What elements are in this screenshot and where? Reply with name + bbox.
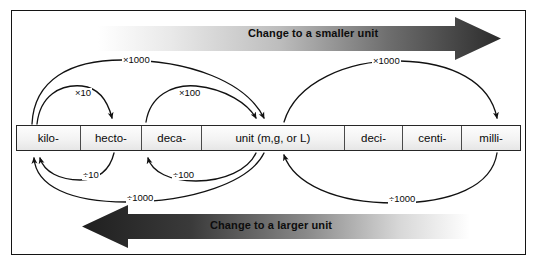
scale-cell-label: hecto- bbox=[95, 132, 127, 144]
scale-cell-label: unit (m,g, or L) bbox=[235, 132, 310, 144]
scale-cell-deca: deca- bbox=[142, 126, 202, 150]
metric-conversion-figure: Change to a smaller unit Change to a lar… bbox=[0, 0, 538, 266]
scale-cell-milli: milli- bbox=[462, 126, 520, 150]
scale-cell-deci: deci- bbox=[345, 126, 404, 150]
arc-label-unit-to-kilo: ÷1000 bbox=[126, 193, 154, 203]
arc-label-hecto-to-kilo: ÷10 bbox=[82, 170, 100, 180]
top-banner-label: Change to a smaller unit bbox=[248, 27, 378, 39]
scale-cell-label: centi- bbox=[418, 132, 446, 144]
unit-scale-table: kilo- hecto- deca- unit (m,g, or L) deci… bbox=[16, 125, 521, 151]
arc-label-kilo-to-hecto: ×10 bbox=[74, 88, 92, 98]
scale-cell-label: kilo- bbox=[38, 132, 59, 144]
divide-arcs-group bbox=[34, 153, 497, 203]
arc-hecto-to-kilo bbox=[40, 153, 114, 180]
scale-cell-kilo: kilo- bbox=[17, 126, 81, 150]
arc-label-kilo-to-unit: ×1000 bbox=[122, 55, 151, 65]
scale-cell-unit: unit (m,g, or L) bbox=[202, 126, 345, 150]
arc-label-milli-to-unit: ÷1000 bbox=[388, 194, 416, 204]
arc-label-unit-to-deca: ÷100 bbox=[172, 170, 195, 180]
scale-cell-hecto: hecto- bbox=[81, 126, 143, 150]
multiply-arcs-group bbox=[32, 60, 497, 124]
scale-cell-label: deci- bbox=[361, 132, 386, 144]
arc-label-deca-to-unit: ×100 bbox=[178, 88, 201, 98]
scale-cell-centi: centi- bbox=[403, 126, 462, 150]
scale-cell-label: deca- bbox=[157, 132, 186, 144]
bottom-banner-label: Change to a larger unit bbox=[210, 219, 332, 231]
scale-cell-label: milli- bbox=[479, 132, 503, 144]
arc-unit-to-milli bbox=[284, 61, 497, 122]
arc-label-unit-to-milli: ×1000 bbox=[372, 56, 401, 66]
